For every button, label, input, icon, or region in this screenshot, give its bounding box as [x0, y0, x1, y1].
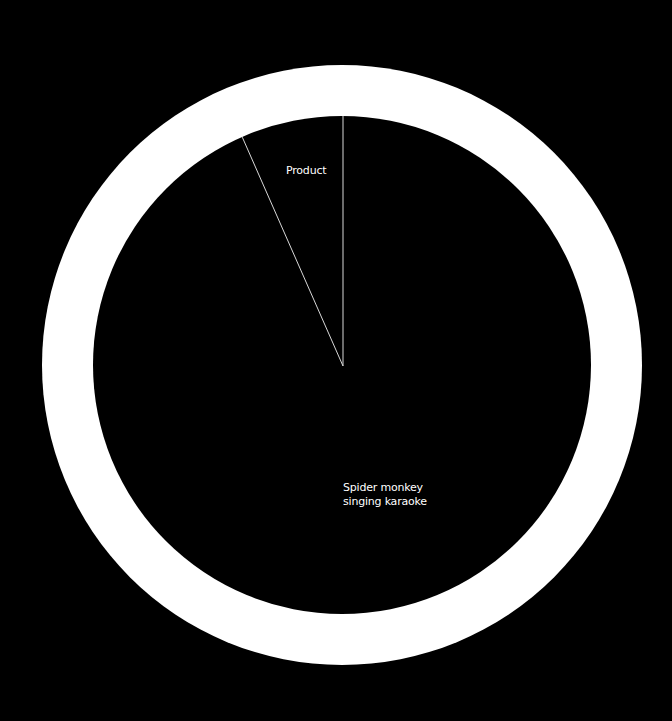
pie-chart: [0, 0, 672, 721]
slice-label-spider-monkey: Spider monkey singing karaoke: [343, 481, 427, 509]
pie-disk: [93, 116, 591, 614]
slice-label-product: Product: [286, 164, 326, 178]
